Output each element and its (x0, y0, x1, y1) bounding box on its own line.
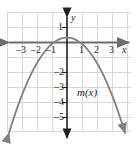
x-axis-label: x (122, 45, 126, 55)
y-tick-label--3: –3 (54, 82, 64, 92)
graph-figure: –3 –2 –1 1 2 3 1 –2 –3 –4 –5 y x m(x) (0, 0, 138, 144)
coordinate-plane (0, 0, 138, 144)
x-tick-label-2: 2 (94, 45, 99, 55)
x-tick-label--2: –2 (31, 45, 41, 55)
y-tick-label--2: –2 (54, 67, 64, 77)
y-tick-label-1: 1 (58, 22, 63, 32)
x-tick-label--3: –3 (16, 45, 26, 55)
y-tick-label--5: –5 (54, 112, 64, 122)
x-tick-label--1: –1 (46, 45, 56, 55)
x-tick-label-1: 1 (79, 45, 84, 55)
curve-label-mx: m(x) (77, 87, 97, 98)
y-axis-label: y (71, 13, 75, 23)
y-tick-label--4: –4 (54, 97, 64, 107)
x-tick-label-3: 3 (109, 45, 114, 55)
